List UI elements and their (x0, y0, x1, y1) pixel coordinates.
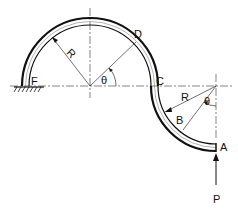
radius-arrow-upper (52, 37, 58, 43)
label-a: A (220, 142, 227, 153)
load-arrow-icon (213, 153, 219, 161)
curved-bar-diagram (0, 0, 238, 214)
label-b: B (176, 115, 183, 126)
label-theta-upper: θ (101, 75, 107, 86)
radius-arrow-lower (165, 107, 172, 112)
label-radius-lower: R (181, 92, 189, 103)
label-theta-lower: θ (204, 96, 210, 107)
theta-arrow-upper (109, 68, 113, 72)
label-p: P (213, 194, 220, 205)
diagram-canvas: F D C B A P R R θ θ (0, 0, 238, 214)
label-d: D (134, 29, 142, 40)
label-c: C (156, 76, 164, 87)
ground-support (14, 87, 44, 92)
centerlines (10, 8, 232, 140)
label-f: F (31, 76, 38, 87)
